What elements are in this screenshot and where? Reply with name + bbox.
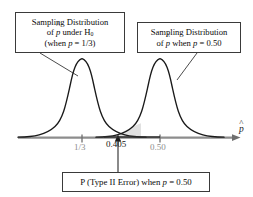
curve-null-distribution xyxy=(18,59,146,138)
callout-left-line3-post: = 1/3) xyxy=(72,38,95,48)
callout-type-ii-error: P (Type II Error) when p = 0.50 xyxy=(62,172,210,192)
x-axis-arrowhead xyxy=(232,134,241,141)
callout-bottom-pre: P (Type II Error) when xyxy=(80,177,162,187)
callout-bottom-line: P (Type II Error) when p = 0.50 xyxy=(80,177,192,187)
type-ii-error-shaded-region xyxy=(104,123,141,137)
connector-left-callout xyxy=(40,53,78,76)
callout-left-line2-mid: under H xyxy=(60,27,90,37)
callout-right-line2-mid: when xyxy=(170,38,193,48)
axis-variable-label: p xyxy=(239,124,244,134)
callout-right-line2-pre: of xyxy=(156,38,165,48)
callout-left-line3: (when p = 1/3) xyxy=(45,38,96,48)
callout-alternative-distribution: Sampling Distribution of p when p = 0.50 xyxy=(137,22,241,53)
callout-left-line3-pre: (when xyxy=(45,38,69,48)
p-hat-symbol: p xyxy=(166,38,170,48)
null-hypothesis-subscript: 0 xyxy=(90,31,93,37)
callout-right-line2: of p when p = 0.50 xyxy=(156,38,221,48)
p-hat-symbol: p xyxy=(239,124,244,134)
tick-label-point-fifty: 0.50 xyxy=(150,142,166,152)
callout-left-line2-pre: of xyxy=(47,27,56,37)
callout-right-line2-post: = 0.50 xyxy=(197,38,221,48)
tick-label-cutoff: 0.405 xyxy=(106,139,126,149)
p-hat-symbol: p xyxy=(56,27,60,37)
callout-left-line1: Sampling Distribution xyxy=(32,17,109,27)
callout-null-distribution: Sampling Distribution of p under H0 (whe… xyxy=(15,12,125,53)
connector-right-callout xyxy=(177,53,197,80)
curve-alternative-distribution xyxy=(96,59,224,138)
callout-right-line1: Sampling Distribution xyxy=(151,27,228,37)
tick-label-one-third: 1/3 xyxy=(74,142,86,152)
callout-bottom-post: = 0.50 xyxy=(167,177,192,187)
callout-left-line2: of p under H0 xyxy=(47,27,94,38)
statistics-figure: Sampling Distribution of p under H0 (whe… xyxy=(0,0,253,197)
